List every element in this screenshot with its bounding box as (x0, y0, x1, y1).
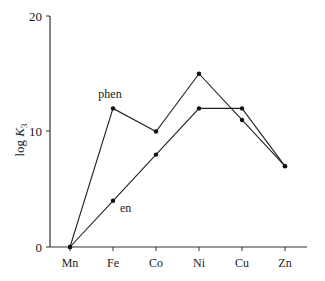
data-point-en (68, 245, 72, 249)
data-point-en (283, 164, 287, 168)
data-point-phen (240, 118, 244, 122)
label-phen: phen (98, 87, 121, 101)
series-line-en (70, 108, 285, 247)
data-point-phen (111, 106, 115, 110)
y-tick-20: 20 (29, 9, 42, 24)
x-tick-mn: Mn (62, 256, 79, 270)
y-axis: 20 10 0 log K3 (12, 9, 50, 255)
x-tick-co: Co (149, 256, 163, 270)
x-tick-fe: Fe (107, 256, 119, 270)
data-point-en (154, 152, 158, 156)
data-point-phen (197, 72, 201, 76)
x-axis: MnFeCoNiCuZn (50, 247, 307, 270)
svg-text:log K3: log K3 (12, 123, 29, 157)
data-point-en (197, 106, 201, 110)
x-tick-ni: Ni (193, 256, 206, 270)
label-en: en (120, 201, 131, 215)
y-tick-0: 0 (36, 240, 43, 255)
x-tick-cu: Cu (235, 256, 249, 270)
y-tick-10: 10 (29, 124, 42, 139)
data-point-en (111, 199, 115, 203)
chart: 20 10 0 log K3 MnFeCoNiCuZn phen en (0, 0, 325, 281)
x-tick-zn: Zn (278, 256, 291, 270)
data-point-phen (154, 129, 158, 133)
y-axis-label: log K3 (12, 123, 29, 157)
data-point-en (240, 106, 244, 110)
